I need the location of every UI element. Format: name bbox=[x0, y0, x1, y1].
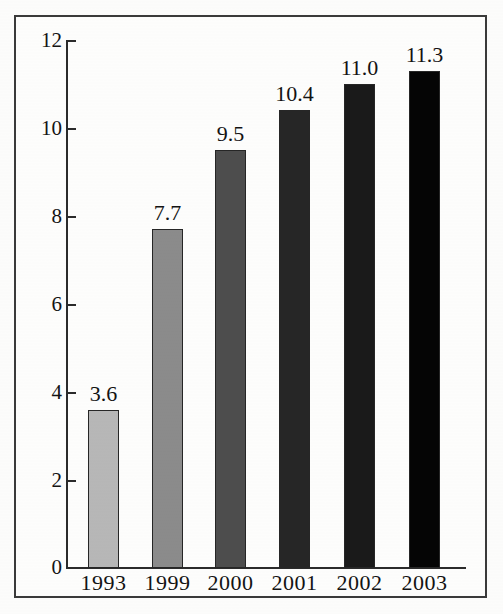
x-tick-label-2001: 2001 bbox=[264, 572, 325, 594]
bar-1993[interactable]: 3.6 bbox=[88, 40, 119, 568]
x-tick-label-1993: 1993 bbox=[73, 572, 134, 594]
y-tick-label-6: 6 bbox=[22, 305, 62, 306]
bar-2003-value-label: 11.3 bbox=[395, 44, 454, 66]
x-tick-label-2003: 2003 bbox=[394, 572, 455, 594]
page-background: 12 10 8 6 4 2 0 3.6 bbox=[0, 0, 503, 614]
bar-2003[interactable]: 11.3 bbox=[409, 40, 440, 568]
y-tick-6 bbox=[66, 304, 76, 306]
x-axis-line bbox=[66, 567, 466, 569]
y-tick-label-2: 2 bbox=[22, 481, 62, 482]
bar-1993-value-label: 3.6 bbox=[74, 383, 133, 405]
y-tick-label-10-text: 10 bbox=[22, 118, 62, 139]
y-tick-label-0: 0 bbox=[22, 568, 62, 569]
y-tick-label-10: 10 bbox=[22, 129, 62, 130]
y-tick-label-2-text: 2 bbox=[22, 470, 62, 491]
x-tick-label-2002: 2002 bbox=[329, 572, 390, 594]
bar-2003-body[interactable] bbox=[409, 71, 440, 568]
bar-2000[interactable]: 9.5 bbox=[215, 40, 246, 568]
y-tick-8 bbox=[66, 216, 76, 218]
bar-2000-value-label: 9.5 bbox=[201, 123, 260, 145]
bar-2001-value-label: 10.4 bbox=[265, 83, 324, 105]
y-tick-label-0-text: 0 bbox=[22, 557, 62, 578]
bar-1993-body[interactable] bbox=[88, 410, 119, 568]
bar-2001[interactable]: 10.4 bbox=[279, 40, 310, 568]
bar-2002-body[interactable] bbox=[344, 84, 375, 568]
bar-2000-body[interactable] bbox=[215, 150, 246, 568]
y-tick-0 bbox=[66, 567, 76, 569]
y-tick-label-12: 12 bbox=[22, 41, 62, 42]
x-tick-label-1999: 1999 bbox=[137, 572, 198, 594]
bar-2002[interactable]: 11.0 bbox=[344, 40, 375, 568]
bar-1999[interactable]: 7.7 bbox=[152, 40, 183, 568]
y-tick-label-4: 4 bbox=[22, 393, 62, 394]
bar-1999-value-label: 7.7 bbox=[138, 202, 197, 224]
y-tick-12 bbox=[66, 40, 76, 42]
bar-chart: 12 10 8 6 4 2 0 3.6 bbox=[0, 0, 503, 614]
bar-2002-value-label: 11.0 bbox=[330, 57, 389, 79]
y-tick-10 bbox=[66, 128, 76, 130]
bar-2001-body[interactable] bbox=[279, 110, 310, 568]
y-tick-label-6-text: 6 bbox=[22, 294, 62, 315]
y-tick-label-4-text: 4 bbox=[22, 382, 62, 403]
y-tick-label-8-text: 8 bbox=[22, 206, 62, 227]
y-tick-label-8: 8 bbox=[22, 217, 62, 218]
bar-1999-body[interactable] bbox=[152, 229, 183, 568]
y-tick-label-12-text: 12 bbox=[22, 30, 62, 51]
y-tick-2 bbox=[66, 480, 76, 482]
x-tick-label-2000: 2000 bbox=[200, 572, 261, 594]
